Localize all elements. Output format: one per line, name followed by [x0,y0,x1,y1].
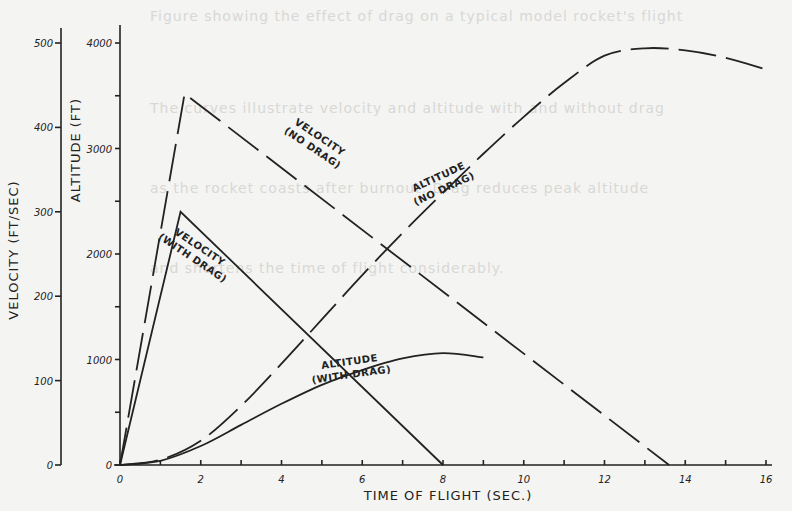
flight-chart: 0246810121416010020030040050001000200030… [0,0,792,511]
x-tick-label: 10 [517,474,530,485]
x-tick-label: 4 [278,474,284,485]
x-tick-label: 16 [760,474,773,485]
x-axis-title: TIME OF FLIGHT (SEC.) [363,488,532,503]
altitude-tick-label: 0 [106,460,112,471]
velocity-tick-label: 500 [34,38,53,49]
altitude-tick-label: 3000 [87,144,112,155]
altitude-tick-label: 4000 [87,38,112,49]
velocity-tick-label: 100 [34,376,53,387]
altitude-tick-label: 2000 [87,249,112,260]
curve-label: VELOCITY(WITH DRAG) [156,220,236,285]
altitude-axis-title: ALTITUDE (FT) [68,98,83,202]
curve-altitude-with-drag [120,353,483,465]
curve-labels: VELOCITY(NO DRAG)VELOCITY(WITH DRAG)ALTI… [156,114,476,385]
x-tick-label: 8 [440,474,446,485]
x-tick-label: 0 [117,474,123,485]
curve-label: ALTITUDE(WITH DRAG) [309,351,392,386]
x-tick-label: 14 [679,474,692,485]
x-tick-label: 2 [198,474,204,485]
x-tick-label: 6 [359,474,365,485]
axes: 0246810121416010020030040050001000200030… [34,25,772,485]
curve-velocity-with-drag [120,212,443,465]
x-tick-label: 12 [598,474,611,485]
curve-label: VELOCITY(NO DRAG) [282,114,350,171]
velocity-tick-label: 0 [47,460,53,471]
velocity-axis-title: VELOCITY (FT/SEC) [6,180,21,319]
velocity-tick-label: 300 [34,207,53,218]
altitude-tick-label: 1000 [87,355,112,366]
velocity-tick-label: 200 [34,291,53,302]
velocity-tick-label: 400 [34,122,53,133]
curve-velocity-no-drag [120,94,669,465]
curve-label: ALTITUDE(NO DRAG) [406,158,476,208]
